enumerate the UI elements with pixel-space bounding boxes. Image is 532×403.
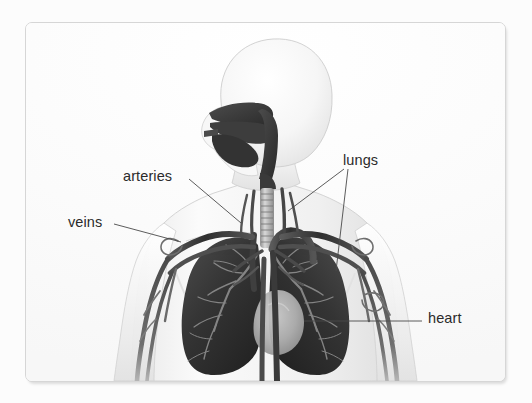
label-lungs: lungs [343,153,378,168]
screenshot-root: arteries veins lungs heart [0,0,532,403]
trachea [260,188,274,248]
anatomy-illustration [26,23,505,381]
label-heart: heart [428,311,462,326]
diagram-card: arteries veins lungs heart [25,22,506,382]
label-arteries: arteries [123,169,172,184]
label-veins: veins [68,215,102,230]
